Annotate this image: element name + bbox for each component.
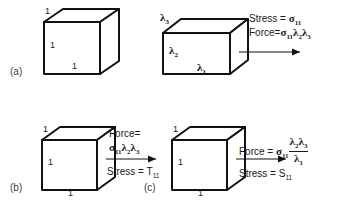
- stress-symbol-c: S11: [279, 168, 292, 179]
- force-annotation-a: Force=σ11λ2λ3: [249, 26, 311, 41]
- stress-prefix-b: Stress =: [107, 166, 147, 177]
- stress-annotation-c: Stress = S11: [239, 168, 292, 181]
- lambda-fraction-c: λ2λ3λ1: [289, 135, 309, 168]
- cube-b-top-label: 1: [43, 124, 48, 134]
- stress-figure: (a) 1 1 1 λ3 λ2 λ1 Stress = σ11 Force=σ1…: [0, 0, 353, 205]
- sigma-sub: 11: [282, 152, 289, 160]
- force-prefix-a: Force=: [249, 27, 280, 38]
- box-a-lambda1-label: λ1: [197, 61, 206, 76]
- cube-a-bottom-label: 1: [72, 61, 77, 71]
- box-a-lambda2-label: λ2: [169, 44, 178, 59]
- lambda2-sub: 2: [174, 51, 178, 59]
- force-lambda3-b: λ3: [131, 141, 140, 153]
- cube-c-bottom-label: 1: [198, 188, 203, 198]
- stress-annotation-b: Stress = T11: [107, 166, 159, 179]
- force-lambda2-b: λ2: [122, 141, 131, 153]
- cube-c-top-label: 1: [173, 124, 178, 134]
- denominator-lambda1: λ1: [294, 152, 303, 164]
- panel-a-unit-cube: [44, 9, 119, 74]
- fraction-numerator: λ2λ3: [289, 135, 309, 152]
- force-expression-b: σ11λ2λ3: [109, 141, 139, 156]
- S-sub: 11: [285, 174, 292, 181]
- force-label-c: Force =: [239, 146, 276, 157]
- panel-label-c: (c): [144, 182, 156, 193]
- force-label-b: Force=: [109, 128, 140, 140]
- cube-a-top-label: 1: [45, 6, 50, 16]
- lambda-sub: 3: [307, 33, 311, 41]
- cube-b-left-label: 1: [48, 157, 53, 167]
- force-lambda2-a: λ2: [293, 26, 302, 38]
- T-sub: 11: [153, 172, 160, 179]
- stress-prefix-c: Stress =: [239, 168, 279, 179]
- stress-prefix-a: Stress =: [249, 13, 289, 24]
- fraction-denominator: λ1: [289, 152, 309, 168]
- box-a-lambda3-label: λ3: [160, 11, 169, 26]
- force-annotation-c: Force = σ11λ2λ3λ1: [239, 136, 308, 169]
- lambda-sub: 3: [136, 148, 140, 156]
- force-sigma-a: σ11: [280, 26, 293, 38]
- panel-label-b: (b): [10, 182, 22, 193]
- stress-symbol-b: T11: [147, 166, 160, 177]
- force-lambda3-a: λ3: [302, 26, 311, 38]
- lambda-sub: 1: [299, 159, 303, 167]
- stress-symbol-a: σ11: [289, 12, 302, 24]
- cube-c-left-label: 1: [178, 157, 183, 167]
- cube-a-left-label: 1: [50, 40, 55, 50]
- numerator-lambda3: λ3: [298, 135, 307, 147]
- stress-annotation-a: Stress = σ11: [249, 12, 301, 27]
- sigma-sub: 11: [115, 148, 122, 156]
- lambda-sub: 3: [304, 142, 308, 150]
- cube-b-bottom-label: 1: [68, 188, 73, 198]
- force-sigma-b: σ11: [109, 141, 122, 153]
- lambda1-sub: 1: [202, 68, 206, 76]
- panel-label-a: (a): [10, 66, 22, 77]
- lambda3-sub: 3: [165, 18, 169, 26]
- force-sigma-c: σ11: [276, 145, 289, 157]
